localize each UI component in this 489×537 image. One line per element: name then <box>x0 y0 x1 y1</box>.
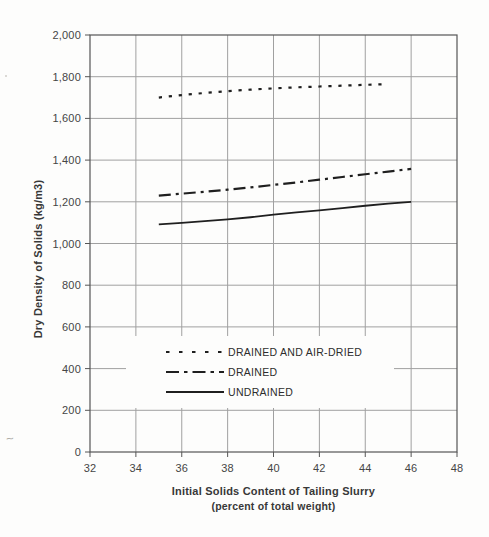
x-axis-title: Initial Solids Content of Tailing Slurry <box>90 485 457 497</box>
legend-label: DRAINED <box>228 366 277 378</box>
series-line-dashdot <box>159 169 411 196</box>
y-tick-label: 1,800 <box>16 71 81 83</box>
y-tick-label: 600 <box>16 321 81 333</box>
y-axis-title: Dry Density of Solids (kg/m3) <box>32 180 44 339</box>
y-tick-label: 1,400 <box>16 154 81 166</box>
legend-row: DRAINED <box>126 362 394 382</box>
legend-sample-dotted <box>166 348 224 356</box>
y-tick-label: 1,200 <box>16 196 81 208</box>
legend-row: DRAINED AND AIR-DRIED <box>126 342 394 362</box>
x-tick-label: 40 <box>257 462 291 474</box>
y-tick-label: 800 <box>16 279 81 291</box>
x-axis-title-sub: (percent of total weight) <box>90 500 457 512</box>
y-tick-label: 2,000 <box>16 29 81 41</box>
x-tick-label: 32 <box>73 462 107 474</box>
series-line-solid <box>159 202 411 225</box>
legend-row: UNDRAINED <box>126 382 394 402</box>
y-tick-label: 400 <box>16 363 81 375</box>
legend-label: DRAINED AND AIR-DRIED <box>228 346 362 358</box>
y-tick-label: 200 <box>16 404 81 416</box>
x-tick-label: 38 <box>211 462 245 474</box>
legend-label: UNDRAINED <box>228 386 293 398</box>
scanned-chart-page: 02004006008001,0001,2001,4001,6001,8002,… <box>0 0 489 537</box>
y-tick-label: 1,000 <box>16 238 81 250</box>
scan-artifact-dot <box>5 75 7 77</box>
x-tick-label: 36 <box>165 462 199 474</box>
legend-sample-dashdot <box>166 368 224 376</box>
x-tick-label: 48 <box>440 462 474 474</box>
x-tick-label: 42 <box>302 462 336 474</box>
y-tick-label: 0 <box>16 446 81 458</box>
scan-artifact-mark: ~ <box>5 431 15 447</box>
x-tick-label: 34 <box>119 462 153 474</box>
legend: DRAINED AND AIR-DRIEDDRAINEDUNDRAINED <box>126 336 394 408</box>
y-tick-label: 1,600 <box>16 112 81 124</box>
legend-sample-solid <box>166 388 224 396</box>
x-tick-label: 46 <box>394 462 428 474</box>
x-tick-label: 44 <box>348 462 382 474</box>
